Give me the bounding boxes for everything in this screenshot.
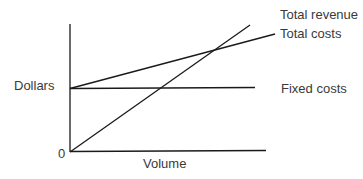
total-costs-label: Total costs [280,27,341,40]
total-revenue-label: Total revenue [280,8,358,21]
origin-label: 0 [58,147,65,160]
fixed-costs-line [70,88,255,89]
x-axis-label: Volume [143,157,186,170]
fixed-costs-label: Fixed costs [281,82,347,95]
x-axis [70,151,266,152]
y-axis-label: Dollars [14,79,54,92]
